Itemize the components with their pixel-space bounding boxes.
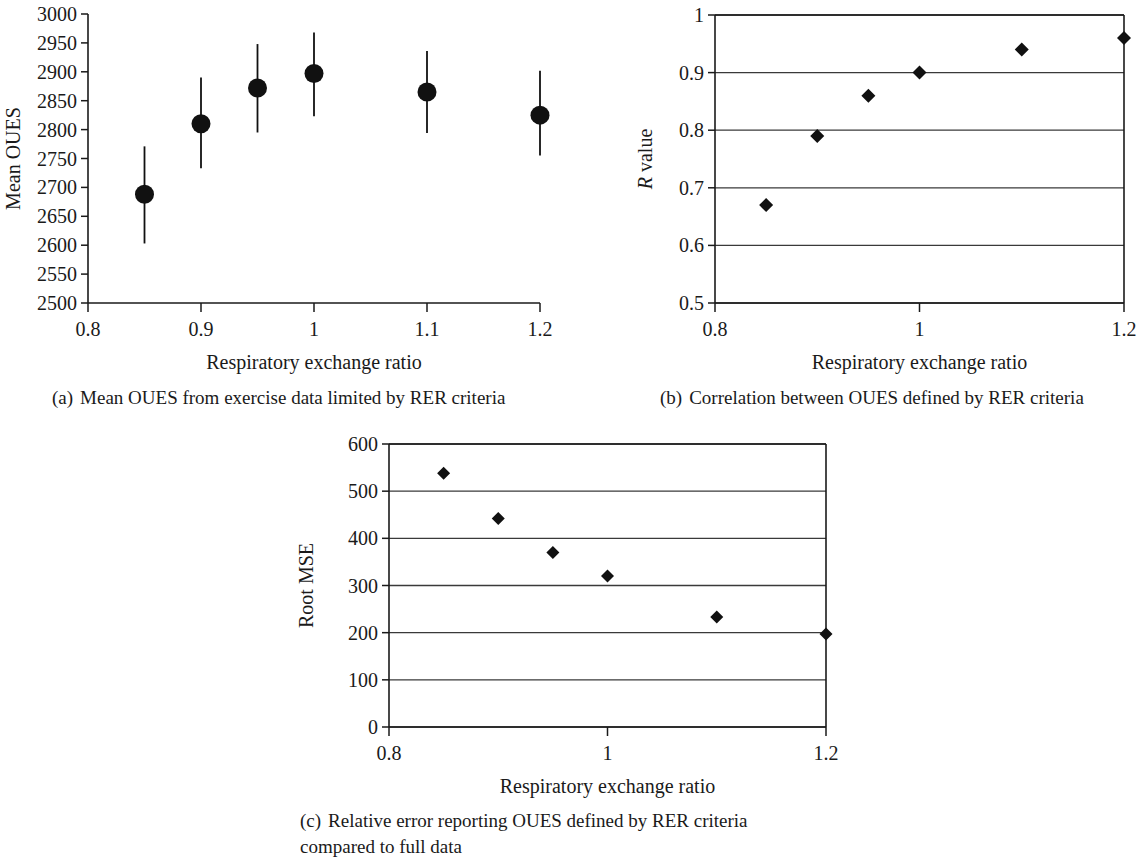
data-point-2: [546, 546, 559, 559]
data-point-3: [305, 64, 324, 83]
y-tick-label-2: 0.7: [679, 177, 704, 199]
caption-a-text: Mean OUES from exercise data limited by …: [80, 387, 505, 408]
y-tick-label-9: 2950: [37, 32, 77, 54]
y-axis-title-italic-part: R: [634, 177, 656, 190]
caption-c-line1: (c)Relative error reporting OUES defined…: [300, 808, 900, 834]
panel-a: 2500255026002650270027502800285029002950…: [0, 0, 620, 380]
y-tick-label-3: 2650: [37, 205, 77, 227]
data-point-0: [759, 198, 773, 212]
x-tick-label-4: 1.2: [528, 318, 553, 340]
x-axis-title: Respiratory exchange ratio: [206, 351, 421, 374]
y-tick-label-7: 2850: [37, 90, 77, 112]
x-tick-label-1: 0.9: [189, 318, 214, 340]
data-point-1: [492, 512, 505, 525]
caption-panel-c: (c)Relative error reporting OUES defined…: [300, 808, 900, 859]
y-tick-label-5: 2750: [37, 148, 77, 170]
y-tick-label-4: 400: [348, 527, 378, 549]
data-point-2: [861, 89, 875, 103]
caption-a-tag: (a): [52, 387, 73, 408]
caption-panel-b: (b)Correlation between OUES defined by R…: [660, 385, 1145, 411]
data-point-5: [531, 106, 550, 125]
y-tick-label-4: 2700: [37, 176, 77, 198]
panel-c: 01002003004005006000.811.2Respiratory ex…: [290, 425, 860, 805]
y-tick-label-0: 0: [368, 716, 378, 738]
panel-b-chart: 0.50.60.70.80.910.811.2Respiratory excha…: [640, 0, 1145, 380]
y-tick-label-8: 2900: [37, 61, 77, 83]
caption-b-tag: (b): [660, 387, 682, 408]
y-axis-title-rest: value: [634, 129, 656, 177]
x-tick-label-0: 0.8: [377, 742, 402, 764]
y-tick-label-1: 0.6: [679, 234, 704, 256]
y-tick-label-6: 2800: [37, 119, 77, 141]
x-tick-label-2: 1: [309, 318, 319, 340]
data-point-4: [418, 83, 437, 102]
panel-c-chart: 01002003004005006000.811.2Respiratory ex…: [290, 425, 860, 805]
y-tick-label-1: 2550: [37, 263, 77, 285]
data-point-3: [913, 66, 927, 80]
y-tick-label-2: 200: [348, 622, 378, 644]
x-tick-label-3: 1.1: [415, 318, 440, 340]
caption-panel-a: (a)Mean OUES from exercise data limited …: [52, 385, 597, 411]
caption-c-text-line1: Relative error reporting OUES defined by…: [328, 810, 747, 831]
panel-b: 0.50.60.70.80.910.811.2Respiratory excha…: [640, 0, 1145, 380]
y-tick-label-3: 0.8: [679, 119, 704, 141]
x-tick-label-2: 1.2: [814, 742, 839, 764]
data-point-5: [1117, 31, 1131, 45]
x-axis-title: Respiratory exchange ratio: [812, 351, 1027, 374]
y-axis-title: Root MSE: [295, 543, 317, 628]
x-tick-label-0: 0.8: [703, 318, 728, 340]
y-axis-title: R value: [634, 129, 656, 191]
data-point-3: [601, 570, 614, 583]
x-tick-label-1: 1: [603, 742, 613, 764]
x-tick-label-0: 0.8: [76, 318, 101, 340]
data-point-1: [192, 114, 211, 133]
data-point-0: [135, 185, 154, 204]
data-point-0: [437, 467, 450, 480]
x-tick-label-2: 1.2: [1112, 318, 1137, 340]
x-tick-label-1: 1: [915, 318, 925, 340]
y-tick-label-5: 1: [694, 4, 704, 26]
y-tick-label-0: 0.5: [679, 292, 704, 314]
y-tick-label-10: 3000: [37, 3, 77, 25]
y-tick-label-4: 0.9: [679, 62, 704, 84]
panel-a-chart: 2500255026002650270027502800285029002950…: [0, 0, 620, 380]
caption-b-text: Correlation between OUES defined by RER …: [689, 387, 1084, 408]
y-tick-label-2: 2600: [37, 234, 77, 256]
data-point-4: [710, 611, 723, 624]
caption-c-line2: compared to full data: [300, 834, 900, 860]
data-point-1: [810, 129, 824, 143]
y-tick-label-1: 100: [348, 669, 378, 691]
caption-c-tag: (c): [300, 810, 321, 831]
data-point-2: [248, 78, 267, 97]
y-tick-label-0: 2500: [37, 292, 77, 314]
data-point-5: [820, 628, 833, 641]
data-point-4: [1015, 43, 1029, 57]
y-tick-label-5: 500: [348, 480, 378, 502]
y-tick-label-6: 600: [348, 433, 378, 455]
x-axis-title: Respiratory exchange ratio: [500, 775, 715, 798]
y-tick-label-3: 300: [348, 575, 378, 597]
y-axis-title: Mean OUES: [2, 107, 24, 210]
figure-three-panel: 2500255026002650270027502800285029002950…: [0, 0, 1145, 863]
